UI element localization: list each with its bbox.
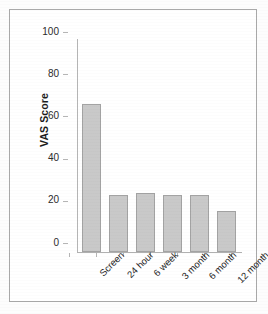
y-tick-label: 0 [17,238,59,248]
x-axis-label: 3 month [180,250,211,281]
y-tick-mark [63,243,68,244]
bar [109,195,128,252]
x-tick-mark [96,253,97,257]
y-tick-mark [63,74,68,75]
y-tick-label: 100 [17,27,59,37]
bar [217,211,236,252]
x-tick-mark [69,253,70,257]
y-tick-mark [63,32,68,33]
y-tick-label: 40 [17,153,59,163]
x-axis-label: 6 month [207,250,238,281]
y-tick-label: 80 [17,69,59,79]
y-tick-label: 20 [17,195,59,205]
chart-frame: VAS Score 020406080100 Screen24 hour6 we… [9,9,257,302]
figure-container: VAS Score 020406080100 Screen24 hour6 we… [0,0,268,314]
x-axis-label: 12 month [235,250,268,285]
x-axis-label: 6 week [151,250,179,278]
bar [136,193,155,252]
y-tick-label: 60 [17,111,59,121]
x-axis-line [77,252,242,253]
y-tick-mark [63,201,68,202]
x-axis-label: Screen [97,250,125,278]
y-tick-mark [63,116,68,117]
bar [163,195,182,252]
bar [82,104,101,252]
plot-area [78,41,240,252]
x-axis-label: 24 hour [125,250,155,280]
bar [190,195,209,252]
y-tick-mark [63,159,68,160]
